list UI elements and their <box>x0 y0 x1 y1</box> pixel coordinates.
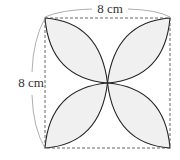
petal-bottom-right <box>108 83 171 148</box>
petal-bottom-left <box>45 83 108 148</box>
petal-top-right <box>108 18 171 83</box>
petal-square-diagram: 8 cm 8 cm <box>0 0 180 160</box>
petals <box>45 18 170 148</box>
petal-top-left <box>45 18 108 83</box>
top-dimension-label: 8 cm <box>97 1 123 16</box>
left-dimension-label: 8 cm <box>18 75 44 90</box>
